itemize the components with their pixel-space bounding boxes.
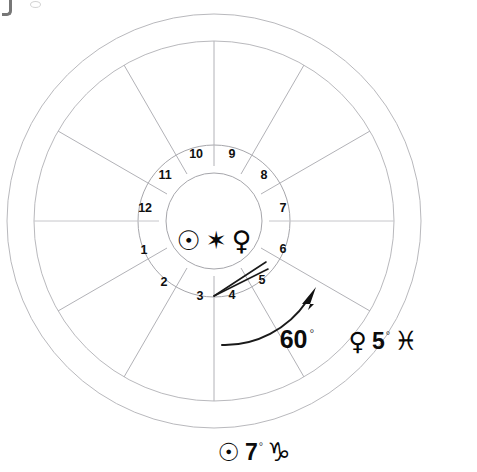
venus-position-label: ♀ 5 ° ♓ — [349, 328, 418, 354]
venus-icon-label: ♀ — [349, 329, 367, 354]
venus-icon: ♀ — [232, 227, 252, 254]
house-number-4: 4 — [229, 289, 236, 302]
house-number-11: 11 — [159, 169, 172, 182]
spoke-cusp-11 — [124, 65, 187, 174]
house-number-6: 6 — [280, 243, 287, 256]
spoke-cusp-5 — [241, 268, 304, 377]
spoke-cusp-8 — [261, 131, 370, 194]
house-number-5: 5 — [259, 274, 266, 287]
sun-icon: ☉ — [177, 227, 201, 254]
spoke-cusp-2 — [58, 248, 167, 311]
house-number-12: 12 — [138, 202, 152, 215]
house-spokes — [34, 41, 394, 401]
spoke-cusp-6 — [261, 248, 370, 311]
venus-degree-symbol-icon: ° — [386, 330, 390, 341]
spoke-cusp-3 — [124, 268, 187, 377]
angle-value: 60 — [280, 327, 308, 352]
house-number-10: 10 — [189, 148, 203, 161]
house-number-9: 9 — [229, 148, 236, 161]
astrology-chart: 1 2 3 4 5 6 7 8 9 10 11 12 ☉ ✶ ♀ 60 ° ♀ … — [0, 0, 477, 472]
angle-annotation: 60 ° — [280, 327, 315, 352]
house-number-2: 2 — [161, 276, 168, 289]
venus-degree-value: 5 — [372, 330, 385, 353]
house-number-8: 8 — [261, 169, 268, 182]
capricorn-icon: ♑ — [267, 439, 290, 465]
center-glyph-row: ☉ ✶ ♀ — [177, 227, 252, 254]
house-number-3: 3 — [197, 290, 204, 303]
sun-degree-symbol-icon: ° — [259, 441, 263, 452]
sun-degree-value: 7 — [245, 441, 258, 464]
spoke-cusp-12 — [58, 131, 167, 194]
pisces-icon: ♓ — [394, 328, 417, 354]
sun-position-label: ☉ 7 ° ♑ — [218, 439, 291, 465]
house-number-7: 7 — [280, 202, 287, 215]
house-number-1: 1 — [141, 244, 148, 257]
spoke-cusp-9 — [241, 65, 304, 174]
degree-symbol-icon: ° — [310, 328, 315, 340]
scan-artifact-dot — [30, 1, 41, 8]
sun-icon-label: ☉ — [218, 440, 240, 465]
scan-artifact — [2, 0, 12, 16]
sextile-icon: ✶ — [206, 228, 227, 253]
